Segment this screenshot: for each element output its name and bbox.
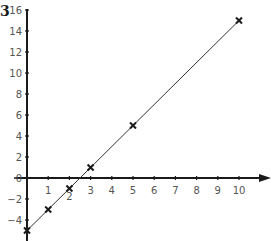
y-tick-label: −4: [7, 215, 22, 226]
x-tick-label: 7: [172, 185, 178, 196]
x-tick-label: 8: [193, 185, 199, 196]
chart: 12345678910−4−20246810121416: [0, 0, 272, 241]
x-tick-label: 1: [45, 185, 51, 196]
data-point: [130, 123, 136, 129]
x-tick-label: 4: [109, 185, 115, 196]
x-tick-label: 6: [151, 185, 157, 196]
y-tick-label: 12: [9, 47, 22, 58]
data-point: [45, 207, 51, 213]
y-tick-label: 16: [9, 5, 22, 16]
x-tick-label: 10: [233, 185, 246, 196]
x-tick-label: 2: [66, 191, 72, 202]
y-tick-label: −2: [7, 194, 22, 205]
x-axis-arrow: [259, 174, 271, 182]
axes: [18, 9, 271, 241]
y-tick-label: 4: [16, 131, 22, 142]
y-tick-label: 8: [16, 89, 22, 100]
x-tick-label: 9: [215, 185, 221, 196]
data-point: [88, 165, 94, 171]
y-tick-label: 6: [16, 110, 22, 121]
x-tick-label: 3: [87, 185, 93, 196]
ticks: 12345678910−4−20246810121416: [7, 5, 245, 226]
data-point: [236, 18, 242, 24]
y-tick-label: 2: [16, 152, 22, 163]
x-tick-label: 5: [130, 185, 136, 196]
y-tick-label: 10: [9, 68, 22, 79]
y-tick-label: 14: [9, 26, 22, 37]
